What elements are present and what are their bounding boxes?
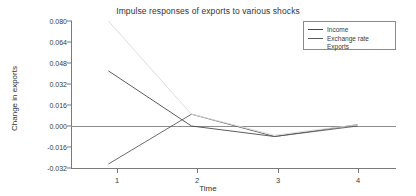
y-axis-title: Change in exports <box>10 44 19 154</box>
legend-swatch-icon <box>308 46 323 47</box>
legend-item: Exports <box>308 42 349 51</box>
legend-swatch-icon <box>308 29 323 30</box>
series-line-income <box>108 71 357 137</box>
legend-item: Income <box>308 25 348 34</box>
legend: Income Exchange rate Exports <box>303 21 396 50</box>
series-line-exchange-rate <box>108 114 357 164</box>
legend-swatch-icon <box>308 38 323 39</box>
chart-container: Impulse responses of exports to various … <box>0 0 416 196</box>
legend-label: Income <box>327 25 348 34</box>
legend-label: Exports <box>327 42 349 51</box>
x-axis-title: Time <box>0 184 416 193</box>
